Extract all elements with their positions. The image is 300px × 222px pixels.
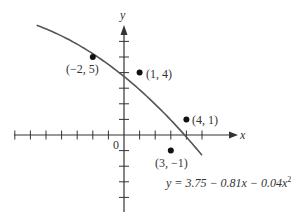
data-point-marker: [168, 148, 174, 154]
point-label-3-neg1: (3, −1): [155, 156, 188, 170]
y-axis-arrow-icon: [121, 25, 128, 35]
point-label-1-4: (1, 4): [146, 67, 172, 81]
data-point-marker: [137, 70, 143, 76]
equation-text: y = 3.75 − 0.81x − 0.04x: [165, 176, 288, 190]
point-label-4-1: (4, 1): [192, 113, 218, 127]
curve-equation: y = 3.75 − 0.81x − 0.04x2: [165, 175, 291, 190]
point-label-neg2-5: (−2, 5): [66, 62, 99, 76]
chart: x y 0 (−2, 5) (1, 4) (4, 1) (3, −1) y = …: [0, 0, 300, 222]
data-point-marker: [90, 54, 96, 60]
x-axis-arrow-icon: [229, 132, 238, 139]
equation-exponent: 2: [287, 175, 291, 184]
origin-label: 0: [113, 138, 119, 152]
data-point-marker: [183, 116, 189, 122]
x-axis-label: x: [239, 128, 246, 142]
y-axis-label: y: [119, 8, 126, 22]
